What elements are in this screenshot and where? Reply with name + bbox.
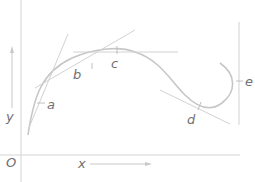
point-label-b: b [73,67,81,82]
point-label-c: c [111,56,118,71]
y-direction-arrow [10,46,14,108]
origin-label: O [6,155,16,170]
tangent-line-b [35,30,135,88]
curve [28,49,233,135]
curve-diagram: a b c d e y x O [0,0,255,182]
x-direction-arrow [90,162,152,166]
point-label-a: a [47,97,55,112]
point-label-d: d [187,112,196,127]
point-label-e: e [245,74,253,89]
tangent-line-a [28,34,68,130]
x-axis-label: x [77,156,86,171]
y-axis-label: y [5,109,14,124]
